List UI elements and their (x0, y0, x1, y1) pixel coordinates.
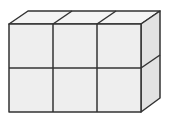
top-face (9, 11, 160, 24)
cube-prism-diagram (0, 0, 170, 120)
